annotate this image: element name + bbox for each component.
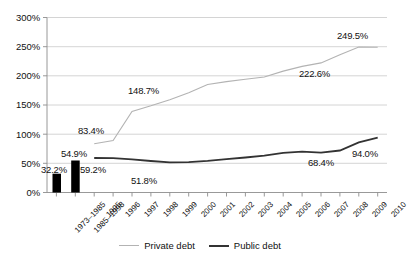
data-label-94-0: 94.0% xyxy=(352,148,378,159)
series-line-public-debt xyxy=(94,138,378,163)
data-label-148-7: 148.7% xyxy=(128,85,159,96)
chart-legend: Private debt Public debt xyxy=(0,240,400,251)
y-tick-label-50: 50% xyxy=(0,158,40,169)
data-label-32-2: 32.2% xyxy=(41,164,67,175)
legend-item-private-debt: Private debt xyxy=(119,240,195,251)
data-label-59-2: 59.2% xyxy=(80,164,106,175)
y-tick-label-250: 250% xyxy=(0,41,40,52)
legend-line-icon-public xyxy=(209,245,229,247)
y-tick-label-300: 300% xyxy=(0,12,40,23)
data-label-222-6: 222.6% xyxy=(299,68,330,79)
gridlines xyxy=(47,18,387,164)
y-tick-label-100: 100% xyxy=(0,129,40,140)
data-label-54-9: 54.9% xyxy=(61,148,87,159)
y-tick-label-200: 200% xyxy=(0,70,40,81)
legend-label-public-debt: Public debt xyxy=(234,240,281,251)
bar-1985-1998 xyxy=(71,161,80,193)
data-label-68-4: 68.4% xyxy=(308,157,334,168)
y-tick-label-0: 0% xyxy=(0,187,40,198)
y-tick-label-150: 150% xyxy=(0,99,40,110)
data-label-51-8: 51.8% xyxy=(131,175,157,186)
legend-line-icon-private xyxy=(119,245,139,246)
legend-label-private-debt: Private debt xyxy=(144,240,195,251)
x-tick-marks xyxy=(56,193,377,197)
legend-item-public-debt: Public debt xyxy=(209,240,281,251)
bar-1973-1985 xyxy=(53,174,62,193)
data-label-249-5: 249.5% xyxy=(337,30,368,41)
data-label-83-4: 83.4% xyxy=(78,125,104,136)
